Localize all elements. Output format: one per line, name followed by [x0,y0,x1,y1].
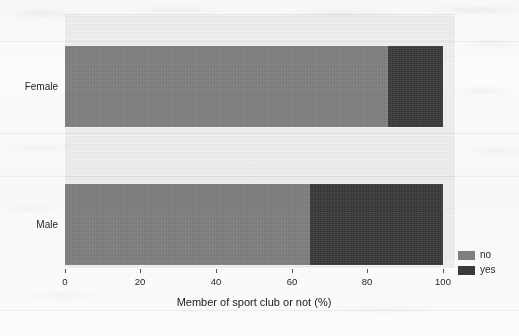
legend-swatch-yes [458,266,475,275]
xtick-mark-60 [292,269,293,273]
xtick-label-80: 80 [347,276,387,287]
bar-male [65,184,443,265]
bar-female-segment-no [65,46,388,127]
segment-texture [388,46,443,127]
xtick-label-60: 60 [272,276,312,287]
x-axis-title: Member of sport club or not (%) [65,296,443,308]
bar-female [65,46,443,127]
bar-male-segment-no [65,184,310,265]
bar-female-segment-yes [388,46,443,127]
segment-texture [65,184,310,265]
xtick-mark-80 [367,269,368,273]
xtick-label-0: 0 [45,276,85,287]
ytick-label-male: Male [0,219,58,230]
legend: no yes [458,250,516,280]
legend-item-no[interactable]: no [458,250,491,260]
xtick-label-100: 100 [423,276,463,287]
legend-item-yes[interactable]: yes [458,265,496,275]
xtick-mark-100 [443,269,444,273]
chart-figure: Female Male 0 20 40 60 80 100 Member of … [0,0,519,336]
ytick-label-female: Female [0,81,58,92]
legend-label-yes: yes [480,265,496,275]
xtick-label-40: 40 [196,276,236,287]
xtick-label-20: 20 [120,276,160,287]
segment-texture [310,184,443,265]
legend-label-no: no [480,250,491,260]
legend-swatch-no [458,251,475,260]
bar-male-segment-yes [310,184,443,265]
segment-texture [65,46,388,127]
xtick-mark-0 [65,269,66,273]
xtick-mark-40 [216,269,217,273]
xtick-mark-20 [140,269,141,273]
scan-artifact-line [0,310,519,311]
